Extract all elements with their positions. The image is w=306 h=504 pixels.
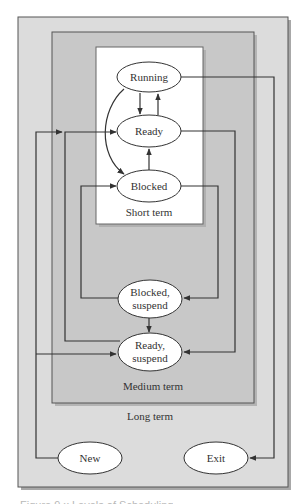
state-new: New: [58, 442, 122, 474]
state-running-label: Running: [130, 71, 168, 83]
state-blocked: Blocked: [117, 170, 181, 202]
medium-term-label: Medium term: [123, 380, 184, 392]
state-ready-suspend-line1: Ready,: [135, 339, 165, 351]
state-ready-suspend: Ready, suspend: [118, 333, 182, 371]
scheduling-diagram: Running Ready Blocked Blocked, suspend R…: [0, 0, 306, 504]
short-term-label: Short term: [126, 206, 173, 218]
state-running: Running: [117, 62, 181, 92]
state-blocked-suspend: Blocked, suspend: [118, 280, 182, 318]
state-ready: Ready: [117, 115, 181, 147]
state-exit: Exit: [184, 442, 248, 474]
state-blocked-label: Blocked: [131, 180, 168, 192]
figure-caption: Figure 9.x Levels of Scheduling: [20, 497, 173, 504]
state-blocked-suspend-line2: suspend: [132, 299, 168, 311]
state-ready-label: Ready: [135, 125, 164, 137]
state-blocked-suspend-line1: Blocked,: [130, 286, 170, 298]
state-exit-label: Exit: [207, 452, 225, 464]
long-term-label: Long term: [127, 410, 174, 422]
state-ready-suspend-line2: suspend: [132, 352, 168, 364]
state-new-label: New: [80, 452, 101, 464]
